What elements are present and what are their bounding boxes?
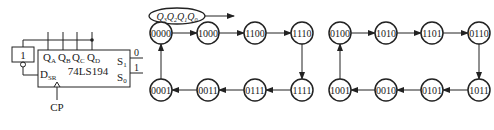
qd-label: Q	[87, 51, 95, 63]
state-node: 0101	[421, 79, 443, 101]
cycle2-transitions	[340, 33, 479, 90]
s1-label: S1	[117, 55, 127, 69]
svg-text:0010: 0010	[376, 85, 396, 96]
qa-label: Q	[43, 51, 51, 63]
state-node: 0000	[150, 22, 172, 44]
svg-text:1011: 1011	[469, 85, 489, 96]
svg-text:0100: 0100	[330, 28, 350, 39]
svg-text:1101: 1101	[422, 28, 442, 39]
s0-label: S0	[117, 71, 127, 85]
svg-text:QB: QB	[58, 51, 71, 65]
svg-text:0001: 0001	[151, 85, 171, 96]
cp-label: CP	[50, 101, 63, 113]
chip-label: 74LS194	[68, 65, 109, 77]
feedback-wire	[23, 40, 92, 47]
s0-value: 1	[134, 62, 139, 73]
state-node: 0001	[150, 79, 172, 101]
svg-text:1001: 1001	[330, 85, 350, 96]
state-legend: Q3Q2Q1Q0	[157, 11, 198, 23]
svg-text:0111: 0111	[245, 85, 264, 96]
svg-text:1100: 1100	[245, 28, 265, 39]
inverter-label: 1	[20, 49, 26, 61]
svg-text:1110: 1110	[292, 28, 311, 39]
inverter-bubble	[21, 62, 26, 67]
svg-text:0000: 0000	[151, 28, 171, 39]
output-labels: QA QB QC QD	[43, 51, 100, 65]
svg-text:0011: 0011	[198, 85, 218, 96]
cycle1-states: 0000 1000 1100 1110 0001 0011 0111 1111	[150, 22, 313, 101]
state-node: 0111	[244, 79, 266, 101]
s1-value: 0	[134, 47, 139, 58]
state-node: 1001	[329, 79, 351, 101]
state-node: 1110	[291, 22, 313, 44]
svg-text:1010: 1010	[376, 28, 396, 39]
junction-dot	[90, 38, 94, 42]
state-node: 1111	[291, 79, 313, 101]
svg-text:0101: 0101	[422, 85, 442, 96]
dsr-label: DSR	[40, 68, 57, 82]
cycle2-states: 0100 1010 1101 0110 1001 0010 0101 1011	[329, 22, 490, 101]
svg-text:0110: 0110	[469, 28, 489, 39]
state-node: 0011	[197, 79, 219, 101]
state-node: 1100	[244, 22, 266, 44]
state-node: 1011	[468, 79, 490, 101]
svg-text:QD: QD	[87, 51, 100, 65]
qb-label: Q	[58, 51, 66, 63]
state-node: 0110	[468, 22, 490, 44]
state-node: 0100	[329, 22, 351, 44]
state-node: 0010	[375, 79, 397, 101]
state-node: 1010	[375, 22, 397, 44]
diagram-canvas: 1 QA QB QC QD DSR 74LS194 S1 S0 0 1 CP Q…	[0, 0, 494, 130]
svg-text:1111: 1111	[293, 85, 312, 96]
qc-label: Q	[72, 51, 80, 63]
state-node: 1000	[197, 22, 219, 44]
dsr-wire	[23, 67, 38, 75]
cycle1-transitions	[161, 33, 302, 90]
svg-text:QC: QC	[72, 51, 85, 65]
clock-triangle-icon	[54, 82, 60, 87]
svg-text:QA: QA	[43, 51, 56, 65]
state-node: 1101	[421, 22, 443, 44]
svg-text:1000: 1000	[198, 28, 218, 39]
